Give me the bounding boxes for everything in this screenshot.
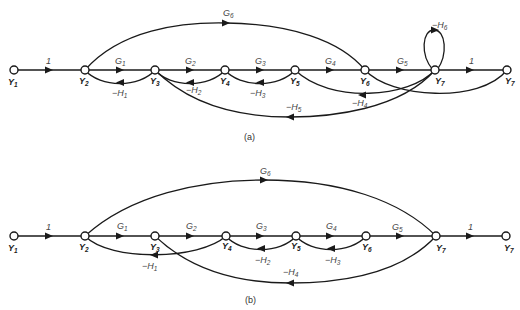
arrow-icon bbox=[396, 233, 404, 240]
gain-h4: −H4 bbox=[352, 98, 368, 109]
gain-labels-a: 1 G1 G2 G3 G4 G5 1 G6 −H1 −H2 −H3 −H4 −H… bbox=[46, 8, 474, 113]
gain-g6: G6 bbox=[223, 8, 234, 19]
gain-h6: −H6 bbox=[432, 20, 448, 31]
gain-h2: −H2 bbox=[186, 85, 202, 96]
edge-h6-a bbox=[424, 30, 444, 70]
arrow-icon bbox=[286, 114, 294, 121]
node-y7 bbox=[432, 232, 440, 240]
label-y2: Y2 bbox=[79, 76, 89, 87]
figure-b: Y1 Y2 Y3 Y4 Y5 Y6 Y7 Y7 1 G1 G2 G3 G4 G5… bbox=[8, 166, 514, 305]
node-y2 bbox=[81, 232, 89, 240]
label-y5: Y5 bbox=[291, 241, 301, 252]
caption-b: (b) bbox=[245, 295, 256, 305]
label-y5: Y5 bbox=[290, 76, 300, 87]
label-y3: Y3 bbox=[150, 76, 160, 87]
gain-1-in: 1 bbox=[46, 56, 51, 66]
arrow-icon bbox=[466, 67, 474, 74]
label-y1: Y1 bbox=[8, 243, 18, 254]
node-y1 bbox=[10, 232, 18, 240]
arrow-icon bbox=[326, 233, 334, 240]
node-y1 bbox=[10, 66, 18, 74]
arrow-icon bbox=[466, 233, 474, 240]
gain-h4: −H4 bbox=[283, 267, 299, 278]
node-y6 bbox=[362, 232, 370, 240]
label-y4: Y4 bbox=[222, 241, 232, 252]
label-y7: Y7 bbox=[436, 243, 446, 254]
gain-h5: −H5 bbox=[286, 102, 302, 113]
gain-h3: −H3 bbox=[325, 255, 341, 266]
gain-g6: G6 bbox=[260, 166, 271, 177]
arrow-icon bbox=[45, 233, 53, 240]
node-y7-output bbox=[502, 232, 510, 240]
gain-g1: G1 bbox=[115, 56, 126, 67]
gain-1-out: 1 bbox=[469, 56, 474, 66]
gain-g5: G5 bbox=[397, 56, 408, 67]
label-y2: Y2 bbox=[79, 242, 89, 253]
arrow-icon bbox=[256, 79, 264, 86]
node-y4 bbox=[221, 66, 229, 74]
node-y7 bbox=[431, 66, 439, 74]
label-y3: Y3 bbox=[150, 242, 160, 253]
signal-flow-graphs: Y1 Y2 Y3 Y4 Y5 Y6 Y7 Y7 1 G1 G2 G3 G4 G5… bbox=[0, 0, 520, 310]
arrow-icon bbox=[286, 280, 294, 287]
node-y4 bbox=[222, 232, 230, 240]
gain-h3: −H3 bbox=[250, 88, 266, 99]
arrow-icon bbox=[256, 67, 264, 74]
gain-g2: G2 bbox=[185, 56, 196, 67]
label-y6: Y6 bbox=[362, 242, 372, 253]
label-y7: Y7 bbox=[435, 76, 445, 87]
arrow-icon bbox=[45, 67, 53, 74]
label-y7-output: Y7 bbox=[504, 243, 514, 254]
figure-a: Y1 Y2 Y3 Y4 Y5 Y6 Y7 Y7 1 G1 G2 G3 G4 G5… bbox=[8, 8, 515, 142]
node-y3 bbox=[151, 66, 159, 74]
gain-h2: −H2 bbox=[255, 255, 271, 266]
gain-g3: G3 bbox=[255, 56, 266, 67]
arrow-icon bbox=[222, 20, 230, 27]
caption-a: (a) bbox=[244, 132, 255, 142]
arrow-icon bbox=[257, 245, 265, 252]
arrow-icon bbox=[326, 67, 334, 74]
label-y4: Y4 bbox=[220, 76, 230, 87]
gain-h1: −H1 bbox=[142, 261, 158, 272]
edge-g6-a bbox=[85, 23, 365, 70]
node-y6 bbox=[361, 66, 369, 74]
gain-h1: −H1 bbox=[112, 88, 128, 99]
node-y7-output bbox=[503, 66, 511, 74]
arrow-icon bbox=[327, 245, 335, 252]
label-y7-output: Y7 bbox=[505, 76, 515, 87]
arrow-icon bbox=[256, 233, 264, 240]
arrow-icon bbox=[260, 177, 268, 184]
gain-labels-b: 1 G1 G2 G3 G4 G5 1 G6 −H1 −H2 −H3 −H4 bbox=[46, 166, 473, 278]
arrow-icon bbox=[116, 233, 124, 240]
arrow-icon bbox=[116, 79, 124, 86]
node-y5 bbox=[291, 66, 299, 74]
label-y6: Y6 bbox=[360, 76, 370, 87]
gain-1-out: 1 bbox=[468, 222, 473, 232]
gain-g4: G4 bbox=[325, 56, 336, 67]
node-y3 bbox=[151, 232, 159, 240]
arrow-icon bbox=[116, 67, 124, 74]
label-y1: Y1 bbox=[8, 77, 18, 88]
gain-g3: G3 bbox=[256, 221, 267, 232]
arrow-icon bbox=[186, 233, 194, 240]
arrow-icon bbox=[396, 67, 404, 74]
arrow-icon bbox=[186, 67, 194, 74]
gain-g4: G4 bbox=[326, 221, 337, 232]
gain-1-in: 1 bbox=[46, 222, 51, 232]
node-y2 bbox=[81, 66, 89, 74]
gain-g5: G5 bbox=[392, 222, 403, 233]
node-y5 bbox=[292, 232, 300, 240]
gain-g2: G2 bbox=[186, 221, 197, 232]
gain-g1: G1 bbox=[117, 221, 128, 232]
